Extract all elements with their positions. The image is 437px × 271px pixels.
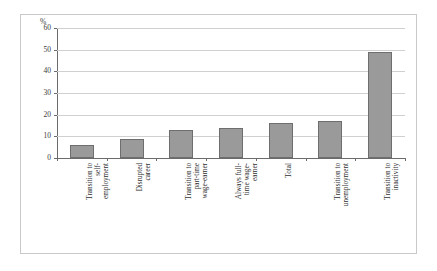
bar: [120, 139, 144, 159]
gridline: [57, 28, 405, 29]
x-axis-tick-mark: [206, 158, 207, 161]
gridline: [57, 93, 405, 94]
bar: [70, 145, 94, 158]
y-axis-tick-label: 50: [44, 46, 52, 54]
x-axis-tick-mark: [256, 158, 257, 161]
x-axis-tick-mark: [355, 158, 356, 161]
x-axis-tick-mark: [107, 158, 108, 161]
gridline: [57, 50, 405, 51]
bar: [169, 130, 193, 158]
x-axis-tick-mark: [156, 158, 157, 161]
x-axis-category-label: Transition to self- employment: [86, 163, 111, 259]
x-axis-category-label: Transition to inactivity: [384, 163, 400, 259]
x-axis-tick-mark: [306, 158, 307, 161]
x-axis-category-label: Always full- time wage- earner: [235, 163, 260, 259]
gridline: [57, 115, 405, 116]
y-axis-tick-label: 10: [44, 132, 52, 140]
x-axis-category-label: Transition to unemployment: [334, 163, 350, 259]
y-axis-tick-label: 20: [44, 111, 52, 119]
y-axis-tick-label: 40: [44, 67, 52, 75]
gridline: [57, 71, 405, 72]
bar-chart-figure: % 0102030405060 Transition to self- empl…: [0, 0, 437, 271]
x-axis-tick-mark: [57, 158, 58, 161]
x-axis-category-label: Disrupted career: [136, 163, 152, 259]
plot-area: [57, 28, 405, 158]
bar: [269, 123, 293, 158]
x-axis-category-label: Total: [285, 163, 293, 259]
y-axis-tick-label: 0: [47, 154, 51, 162]
y-axis-tick-label: 60: [44, 24, 52, 32]
bar: [368, 52, 392, 158]
x-axis-tick-mark: [405, 158, 406, 161]
x-axis-line: [57, 158, 406, 159]
bar: [219, 128, 243, 158]
x-axis-category-label: Transition to part-time wage-earner: [185, 163, 210, 259]
bar: [318, 121, 342, 158]
y-axis-tick-label: 30: [44, 89, 52, 97]
